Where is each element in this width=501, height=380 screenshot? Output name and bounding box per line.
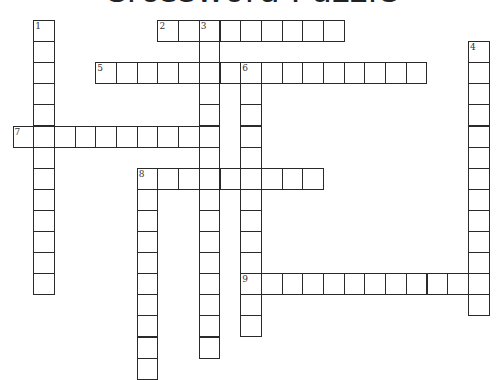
grid-cell[interactable] [364,273,386,295]
grid-cell[interactable] [240,210,262,232]
grid-cell[interactable] [282,20,304,42]
grid-cell[interactable] [261,20,283,42]
grid-cell[interactable] [157,126,179,148]
grid-cell[interactable] [137,126,159,148]
grid-cell[interactable] [240,147,262,169]
grid-cell[interactable] [302,62,324,84]
grid-cell[interactable] [468,189,490,211]
grid-cell[interactable] [116,126,138,148]
grid-cell[interactable] [137,231,159,253]
grid-cell[interactable] [33,273,55,295]
grid-cell[interactable] [468,231,490,253]
grid-cell[interactable] [447,273,469,295]
grid-cell[interactable] [33,252,55,274]
grid-cell[interactable]: 4 [468,41,490,63]
grid-cell[interactable] [261,273,283,295]
grid-cell[interactable] [240,126,262,148]
grid-cell[interactable] [240,20,262,42]
grid-cell[interactable] [75,126,97,148]
grid-cell[interactable] [137,358,159,380]
grid-cell[interactable] [33,126,55,148]
grid-cell[interactable] [199,62,221,84]
grid-cell[interactable] [157,62,179,84]
grid-cell[interactable] [468,62,490,84]
grid-cell[interactable] [240,83,262,105]
grid-cell[interactable] [33,210,55,232]
grid-cell[interactable] [199,337,221,359]
grid-cell[interactable] [468,168,490,190]
grid-cell[interactable] [302,20,324,42]
grid-cell[interactable] [137,62,159,84]
grid-cell[interactable] [406,62,428,84]
grid-cell[interactable] [468,252,490,274]
grid-cell[interactable] [240,168,262,190]
grid-cell[interactable] [199,83,221,105]
grid-cell[interactable] [240,189,262,211]
grid-cell[interactable] [468,273,490,295]
grid-cell[interactable] [240,104,262,126]
grid-cell[interactable] [468,83,490,105]
grid-cell[interactable] [178,20,200,42]
grid-cell[interactable] [323,20,345,42]
grid-cell[interactable] [199,315,221,337]
grid-cell[interactable] [468,104,490,126]
grid-cell[interactable] [302,273,324,295]
grid-cell[interactable] [282,168,304,190]
grid-cell[interactable] [33,104,55,126]
grid-cell[interactable]: 9 [240,273,262,295]
grid-cell[interactable]: 2 [157,20,179,42]
grid-cell[interactable]: 3 [199,20,221,42]
grid-cell[interactable] [261,168,283,190]
grid-cell[interactable] [468,210,490,232]
grid-cell[interactable] [199,252,221,274]
grid-cell[interactable] [344,273,366,295]
grid-cell[interactable] [468,147,490,169]
grid-cell[interactable] [54,126,76,148]
grid-cell[interactable]: 7 [13,126,35,148]
grid-cell[interactable] [220,62,242,84]
grid-cell[interactable] [323,62,345,84]
grid-cell[interactable] [199,231,221,253]
grid-cell[interactable] [323,273,345,295]
grid-cell[interactable] [33,189,55,211]
grid-cell[interactable] [199,294,221,316]
grid-cell[interactable] [282,62,304,84]
grid-cell[interactable] [178,62,200,84]
grid-cell[interactable] [137,294,159,316]
grid-cell[interactable] [220,168,242,190]
grid-cell[interactable] [33,168,55,190]
grid-cell[interactable] [178,126,200,148]
grid-cell[interactable] [468,126,490,148]
grid-cell[interactable] [199,126,221,148]
grid-cell[interactable] [240,252,262,274]
grid-cell[interactable] [33,41,55,63]
grid-cell[interactable] [199,168,221,190]
grid-cell[interactable] [137,189,159,211]
grid-cell[interactable] [199,147,221,169]
grid-cell[interactable] [157,168,179,190]
grid-cell[interactable] [199,104,221,126]
grid-cell[interactable] [137,252,159,274]
grid-cell[interactable] [240,294,262,316]
grid-cell[interactable] [364,62,386,84]
grid-cell[interactable] [116,62,138,84]
grid-cell[interactable] [199,273,221,295]
grid-cell[interactable] [220,20,242,42]
grid-cell[interactable] [33,147,55,169]
grid-cell[interactable] [302,168,324,190]
grid-cell[interactable] [137,273,159,295]
grid-cell[interactable] [406,273,428,295]
grid-cell[interactable] [385,273,407,295]
grid-cell[interactable] [137,315,159,337]
grid-cell[interactable] [199,210,221,232]
grid-cell[interactable] [344,62,366,84]
grid-cell[interactable] [33,62,55,84]
grid-cell[interactable] [240,315,262,337]
grid-cell[interactable] [261,62,283,84]
grid-cell[interactable] [199,189,221,211]
grid-cell[interactable] [468,294,490,316]
grid-cell[interactable] [385,62,407,84]
grid-cell[interactable] [33,231,55,253]
grid-cell[interactable] [199,41,221,63]
grid-cell[interactable] [240,231,262,253]
